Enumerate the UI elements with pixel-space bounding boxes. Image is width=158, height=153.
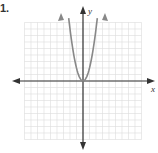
y-axis-down-arrow-icon [80,142,86,150]
curve-left-arrow-icon [58,13,64,21]
y-axis-up-arrow-icon [80,6,86,14]
y-axis-label: y [87,6,92,16]
x-axis-label: x [150,84,155,94]
curve-right-arrow-icon [102,13,108,21]
x-axis-left-arrow-icon [12,78,20,84]
graph: y x [0,0,158,153]
